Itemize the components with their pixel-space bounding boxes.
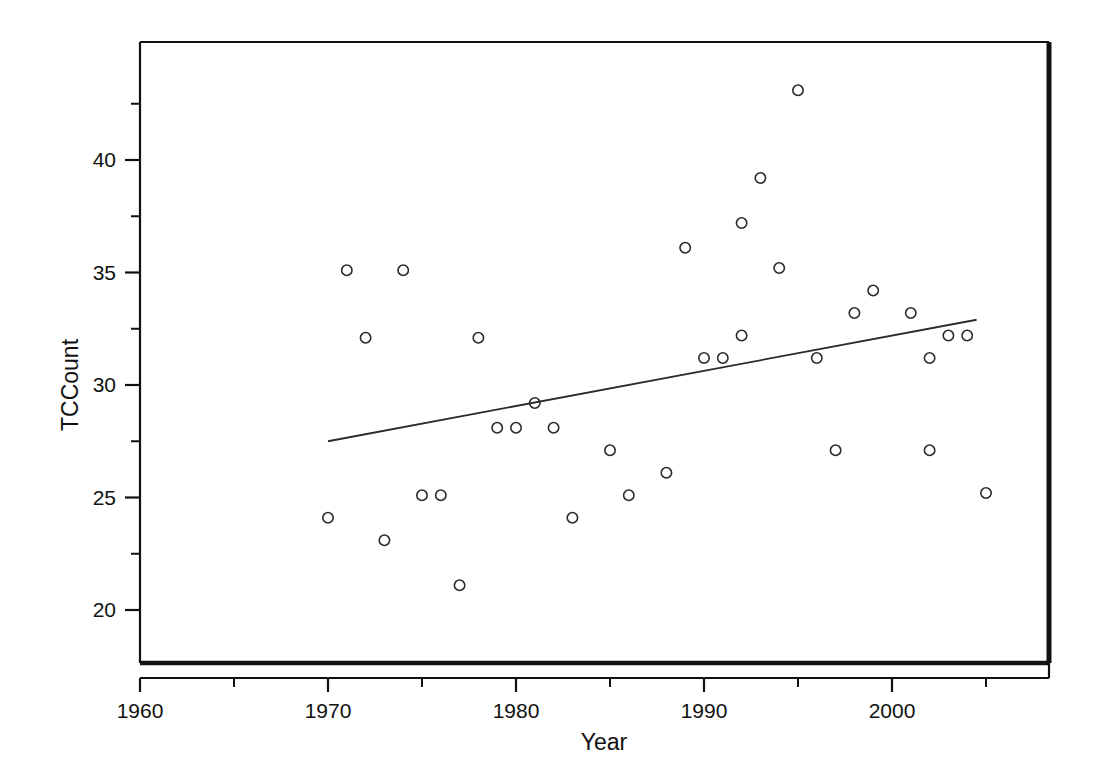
plot-frame <box>140 42 1049 678</box>
x-tick-label-1980: 1980 <box>493 699 540 722</box>
data-point <box>793 85 803 95</box>
x-tick-label-1990: 1990 <box>681 699 728 722</box>
data-point <box>736 218 746 228</box>
x-axis-ticks <box>140 678 986 692</box>
x-tick-label-1960: 1960 <box>117 699 164 722</box>
data-point <box>492 423 502 433</box>
y-tick-label-40: 40 <box>93 148 116 171</box>
regression-line <box>328 320 977 442</box>
data-point <box>379 535 389 545</box>
data-point <box>567 513 577 523</box>
data-point <box>868 285 878 295</box>
data-point <box>849 308 859 318</box>
x-tick-label-1970: 1970 <box>305 699 352 722</box>
data-point <box>981 488 991 498</box>
y-axis-tick-labels: 2025303540 <box>93 148 116 621</box>
data-point <box>943 330 953 340</box>
x-axis-title: Year <box>581 729 628 755</box>
data-point <box>605 445 615 455</box>
data-point <box>511 423 521 433</box>
data-point <box>548 423 558 433</box>
data-point <box>699 353 709 363</box>
x-axis-tick-labels: 19601970198019902000 <box>117 699 916 722</box>
data-point <box>812 353 822 363</box>
y-tick-label-35: 35 <box>93 261 116 284</box>
plot-canvas: 19601970198019902000 2025303540 Year TCC… <box>0 0 1102 772</box>
data-point <box>342 265 352 275</box>
scatter-plot-figure: 19601970198019902000 2025303540 Year TCC… <box>0 0 1102 772</box>
data-point <box>924 445 934 455</box>
x-tick-label-2000: 2000 <box>869 699 916 722</box>
data-point <box>417 490 427 500</box>
data-point <box>680 243 690 253</box>
data-point <box>624 490 634 500</box>
data-point <box>736 330 746 340</box>
data-point <box>360 333 370 343</box>
data-point <box>830 445 840 455</box>
data-point <box>323 513 333 523</box>
data-point <box>906 308 916 318</box>
y-axis-title: TCCount <box>57 338 83 431</box>
data-point <box>398 265 408 275</box>
data-point <box>924 353 934 363</box>
data-point <box>962 330 972 340</box>
data-points <box>323 85 991 590</box>
data-point <box>454 580 464 590</box>
data-point <box>774 263 784 273</box>
y-axis-ticks <box>125 104 140 610</box>
data-point <box>661 468 671 478</box>
data-point <box>718 353 728 363</box>
data-point <box>755 173 765 183</box>
y-tick-label-20: 20 <box>93 598 116 621</box>
y-tick-label-25: 25 <box>93 486 116 509</box>
fit-line <box>328 320 977 442</box>
data-point <box>436 490 446 500</box>
y-tick-label-30: 30 <box>93 373 116 396</box>
data-point <box>473 333 483 343</box>
